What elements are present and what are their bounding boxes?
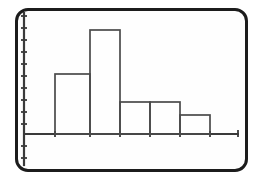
bar-5 — [180, 115, 210, 134]
bar-1 — [55, 74, 90, 134]
bar-3 — [120, 102, 150, 134]
histogram-bars — [55, 30, 210, 134]
histogram-plot-area — [0, 0, 258, 180]
bar-2 — [90, 30, 120, 134]
y-axis-group — [21, 13, 27, 165]
bar-4 — [150, 102, 180, 134]
screenshot-root — [0, 0, 258, 180]
histogram-svg — [0, 0, 258, 180]
